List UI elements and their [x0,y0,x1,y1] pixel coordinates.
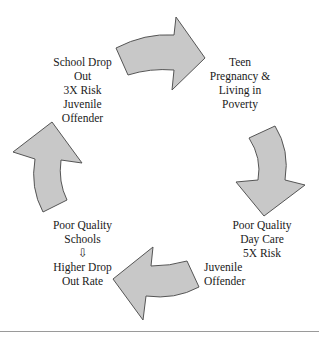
horizontal-rule [0,331,319,332]
node-line: Poor Quality [204,218,304,232]
node-line: Offender [204,274,304,288]
node-line: School Drop [45,55,120,69]
node-line: Juvenile [204,260,304,274]
arrow-right-down-icon [236,126,305,216]
node-line: Teen [205,55,275,69]
node-line: Poor Quality [45,218,120,232]
arrow-bottom-left-icon [113,247,199,320]
node-line: Pregnancy & [205,69,275,83]
cycle-diagram: School Drop Out 3X Risk Juvenile Offende… [0,0,319,338]
node-line: Juvenile [45,97,120,111]
node-line: Poverty [205,97,275,111]
node-line: Day Care [204,232,304,246]
node-line: Schools [45,232,120,246]
node-line: Out Rate [45,274,120,288]
node-line: 5X Risk [204,246,304,260]
arrow-top-right-icon [116,17,205,90]
node-poor-schools: Poor Quality Schools ⇩ Higher Drop Out R… [45,218,120,288]
arrow-left-up-icon [13,122,82,212]
down-arrow-icon: ⇩ [45,246,120,260]
node-line: Living in [205,83,275,97]
node-line: Out [45,69,120,83]
node-school-drop-out: School Drop Out 3X Risk Juvenile Offende… [45,55,120,125]
node-line: 3X Risk [45,83,120,97]
node-poor-day-care: Poor Quality Day Care 5X Risk Juvenile O… [204,218,304,288]
node-line: Higher Drop [45,260,120,274]
node-line: Offender [45,111,120,125]
node-teen-pregnancy: Teen Pregnancy & Living in Poverty [205,55,275,111]
